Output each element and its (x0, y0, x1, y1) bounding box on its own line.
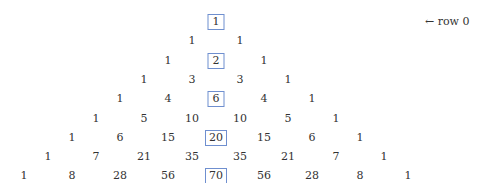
coefficient: 1 (261, 54, 268, 68)
coefficient: 7 (333, 150, 340, 164)
coefficient: 6 (309, 131, 316, 145)
coefficient: 21 (281, 150, 295, 164)
pascal-triangle: 1111211331146411510105116152015611721353… (0, 0, 484, 183)
coefficient: 8 (357, 169, 364, 183)
coefficient: 7 (93, 150, 100, 164)
coefficient: 35 (185, 150, 199, 164)
central-coefficient-boxed: 70 (205, 168, 227, 183)
coefficient: 1 (21, 169, 28, 183)
coefficient: 5 (141, 112, 148, 126)
coefficient: 1 (309, 92, 316, 106)
coefficient: 1 (141, 73, 148, 87)
coefficient: 4 (165, 92, 172, 106)
coefficient: 1 (189, 34, 196, 48)
coefficient: 3 (189, 73, 196, 87)
coefficient: 1 (381, 150, 388, 164)
coefficient: 5 (285, 112, 292, 126)
coefficient: 15 (161, 131, 175, 145)
coefficient: 56 (257, 169, 271, 183)
coefficient: 28 (305, 169, 319, 183)
coefficient: 1 (93, 112, 100, 126)
row-label-text: row 0 (438, 15, 470, 28)
left-arrow-icon: ← (425, 15, 434, 28)
coefficient: 1 (69, 131, 76, 145)
coefficient: 1 (165, 54, 172, 68)
coefficient: 10 (233, 112, 247, 126)
coefficient: 1 (333, 112, 340, 126)
coefficient: 1 (357, 131, 364, 145)
central-coefficient-boxed: 6 (208, 91, 225, 107)
coefficient: 6 (117, 131, 124, 145)
central-coefficient-boxed: 1 (208, 14, 225, 30)
coefficient: 1 (237, 34, 244, 48)
coefficient: 1 (45, 150, 52, 164)
coefficient: 1 (117, 92, 124, 106)
coefficient: 3 (237, 73, 244, 87)
coefficient: 1 (405, 169, 412, 183)
coefficient: 21 (137, 150, 151, 164)
coefficient: 1 (285, 73, 292, 87)
coefficient: 35 (233, 150, 247, 164)
row-0-annotation: ← row 0 (425, 15, 470, 29)
coefficient: 8 (69, 169, 76, 183)
coefficient: 15 (257, 131, 271, 145)
coefficient: 4 (261, 92, 268, 106)
coefficient: 28 (113, 169, 127, 183)
central-coefficient-boxed: 20 (205, 130, 227, 146)
coefficient: 56 (161, 169, 175, 183)
central-coefficient-boxed: 2 (208, 53, 225, 69)
coefficient: 10 (185, 112, 199, 126)
